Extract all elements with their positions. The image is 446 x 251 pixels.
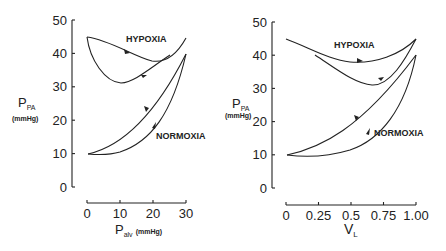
right-y-tick: 30 xyxy=(253,81,267,96)
arrow-icon xyxy=(378,77,384,81)
left-y-tick: 0 xyxy=(60,180,67,195)
arrow-icon xyxy=(354,115,359,121)
figure: 50 40 30 20 10 0 0 10 20 30 HYPOXIA NORM… xyxy=(0,0,446,251)
arrow-icon xyxy=(144,106,149,112)
arrow-icon xyxy=(366,128,370,135)
left-x-tick: 10 xyxy=(113,206,127,221)
right-x-title: VL xyxy=(344,221,358,239)
right-x-tick: 1.00 xyxy=(403,208,428,223)
right-x-tick: 0.25 xyxy=(306,208,331,223)
right-y-tick: 0 xyxy=(260,181,267,196)
right-x-tick-labels: 0 0.25 0.5 0.75 1.00 xyxy=(282,208,428,223)
left-x-tick-labels: 0 10 20 30 xyxy=(83,206,193,221)
arrow-icon xyxy=(141,75,147,78)
right-y-tick-labels: 50 40 30 20 10 0 xyxy=(253,15,267,196)
left-y-tick: 10 xyxy=(53,146,67,161)
left-panel xyxy=(72,20,186,203)
svg-text:PPA: PPA xyxy=(18,95,36,111)
right-y-tick: 40 xyxy=(253,48,267,63)
left-x-tick: 20 xyxy=(146,206,160,221)
left-x-tick: 0 xyxy=(83,206,90,221)
svg-text:(mmHg): (mmHg) xyxy=(225,112,251,120)
left-y-tick: 20 xyxy=(53,113,67,128)
left-y-title: PPA (mmHg) xyxy=(12,95,38,123)
left-y-tick: 30 xyxy=(53,79,67,94)
right-y-tick: 20 xyxy=(253,114,267,129)
svg-text:Palv(mmHg): Palv(mmHg) xyxy=(115,222,162,238)
right-x-tick: 0 xyxy=(282,208,289,223)
svg-text:PPA: PPA xyxy=(232,96,250,112)
left-y-tick: 40 xyxy=(53,46,67,61)
right-x-tick: 0.75 xyxy=(371,208,396,223)
left-x-tick: 30 xyxy=(179,206,193,221)
left-y-tick: 50 xyxy=(53,13,67,28)
left-hypoxia-label: HYPOXIA xyxy=(126,34,167,44)
svg-text:(mmHg): (mmHg) xyxy=(12,115,38,123)
right-arrows xyxy=(354,58,384,135)
left-x-title: Palv(mmHg) xyxy=(115,222,162,238)
arrow-icon xyxy=(152,122,156,129)
right-normoxia-label: NORMOXIA xyxy=(374,128,424,138)
right-y-title: PPA (mmHg) xyxy=(225,96,251,120)
right-y-tick: 50 xyxy=(253,15,267,30)
svg-text:VL: VL xyxy=(344,221,358,239)
left-tick-labels: 50 40 30 20 10 0 xyxy=(53,13,67,195)
right-hypoxia-label: HYPOXIA xyxy=(334,40,375,50)
right-y-tick: 10 xyxy=(253,147,267,162)
left-normoxia-label: NORMOXIA xyxy=(156,131,206,141)
